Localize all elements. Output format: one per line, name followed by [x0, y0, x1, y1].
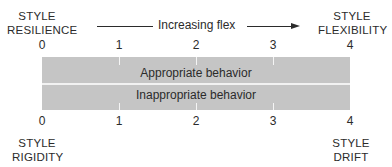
style-flexibility-label: STYLE FLEXIBILITY [318, 9, 386, 37]
style-resilience-line1: STYLE [7, 9, 67, 23]
style-drift-label: STYLE DRIFT [326, 136, 376, 164]
tick-top-1 [119, 57, 120, 65]
bottom-scale-3: 3 [263, 114, 283, 128]
appropriate-behavior-label: Appropriate behavior [42, 66, 350, 80]
top-scale-2: 2 [186, 38, 206, 52]
bottom-scale-2: 2 [186, 114, 206, 128]
tick-bottom-2 [196, 103, 197, 110]
top-scale-4: 4 [340, 38, 360, 52]
arrow-right-icon [291, 23, 300, 29]
style-flexibility-line2: FLEXIBILITY [318, 23, 386, 37]
inappropriate-behavior-label: Inappropriate behavior [42, 88, 350, 102]
bottom-scale-0: 0 [32, 114, 52, 128]
tick-bottom-3 [273, 103, 274, 110]
axis-label: Increasing flex [158, 18, 235, 32]
axis-line-left [97, 26, 153, 27]
style-flexibility-line1: STYLE [318, 9, 386, 23]
style-drift-line2: DRIFT [326, 150, 376, 164]
style-rigidity-line2: RIGIDITY [12, 150, 62, 164]
top-scale-1: 1 [109, 38, 129, 52]
style-rigidity-line1: STYLE [12, 136, 62, 150]
style-rigidity-label: STYLE RIGIDITY [12, 136, 62, 164]
axis-line-right [247, 26, 293, 27]
tick-top-2 [196, 57, 197, 65]
style-drift-line1: STYLE [326, 136, 376, 150]
tick-top-3 [273, 57, 274, 65]
style-resilience-line2: RESILIENCE [7, 23, 67, 37]
top-scale-0: 0 [32, 38, 52, 52]
bottom-scale-4: 4 [340, 114, 360, 128]
bottom-scale-1: 1 [109, 114, 129, 128]
increasing-flex-axis: Increasing flex [97, 18, 303, 34]
top-scale-3: 3 [263, 38, 283, 52]
behavior-bar: Appropriate behavior Inappropriate behav… [42, 57, 350, 110]
bar-divider [42, 83, 350, 85]
style-resilience-label: STYLE RESILIENCE [7, 9, 67, 37]
tick-bottom-1 [119, 103, 120, 110]
